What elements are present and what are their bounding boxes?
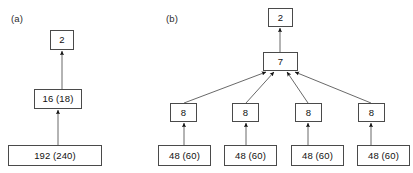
edge-b-leaf3-to-mid: [287, 72, 308, 103]
node-b-base-4: 48 (60): [357, 145, 410, 166]
node-a-top: 2: [50, 30, 74, 50]
node-a-middle: 16 (18): [34, 89, 82, 109]
panel-label-a: (a): [11, 13, 23, 24]
node-b-base-3: 48 (60): [291, 145, 344, 166]
node-b-base-1: 48 (60): [158, 145, 211, 166]
node-b-leaf-1: 8: [170, 103, 197, 122]
node-b-base-2: 48 (60): [224, 145, 277, 166]
node-b-top: 2: [268, 8, 293, 27]
panel-label-b: (b): [166, 13, 178, 24]
node-a-bottom: 192 (240): [8, 145, 102, 166]
edge-b-leaf1-to-mid: [184, 72, 266, 103]
edge-b-leaf2-to-mid: [246, 72, 274, 103]
node-b-leaf-3: 8: [295, 103, 322, 122]
edge-b-leaf4-to-mid: [295, 72, 371, 103]
node-b-leaf-4: 8: [358, 103, 385, 122]
node-b-mid: 7: [263, 52, 298, 71]
node-b-leaf-2: 8: [232, 103, 259, 122]
figure-root: (a) 2 16 (18) 192 (240) (b) 2 7 8 8 8 8 …: [0, 0, 413, 173]
